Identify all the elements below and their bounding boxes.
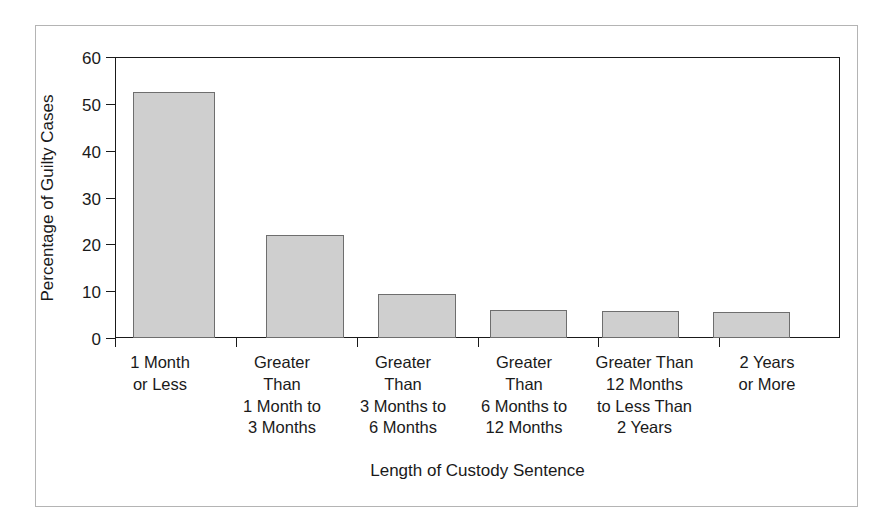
x-tick-boundary-0 <box>115 338 116 347</box>
x-axis-title: Length of Custody Sentence <box>115 461 840 481</box>
plot-area: 0 10 20 30 40 50 60 <box>115 57 840 338</box>
x-tick-boundary-1 <box>236 338 237 347</box>
x-category-label-line: 2 Years <box>557 417 732 439</box>
y-tick-0: 0 <box>106 338 115 339</box>
x-tick-boundary-5 <box>719 338 720 347</box>
x-tick-boundary-2 <box>357 338 358 347</box>
y-tick-label-30: 30 <box>82 190 101 207</box>
y-tick-label-20: 20 <box>82 237 101 254</box>
x-category-label-5: 2 Yearsor More <box>682 352 852 396</box>
bar-1-to-3-months <box>266 235 344 338</box>
y-tick-label-0: 0 <box>92 331 101 348</box>
bar-12-months-to-2-years <box>602 311 679 338</box>
x-category-label-line: to Less Than <box>557 396 732 418</box>
x-category-label-line: 2 Years <box>682 352 852 374</box>
plot-box <box>115 57 840 338</box>
y-tick-label-60: 60 <box>82 50 101 67</box>
bar-1-month-or-less <box>133 92 215 338</box>
y-tick-label-10: 10 <box>82 284 101 301</box>
figure: Percentage of Guilty Cases 0 10 20 30 40… <box>0 0 882 527</box>
y-tick-50: 50 <box>106 104 115 105</box>
y-tick-60: 60 <box>106 57 115 58</box>
y-tick-10: 10 <box>106 291 115 292</box>
y-tick-label-40: 40 <box>82 143 101 160</box>
bar-2-years-or-more <box>713 312 790 338</box>
x-category-label-line: or More <box>682 374 852 396</box>
bar-3-to-6-months <box>378 294 456 338</box>
bar-6-to-12-months <box>490 310 567 338</box>
x-tick-boundary-3 <box>478 338 479 347</box>
x-tick-boundary-4 <box>598 338 599 347</box>
y-tick-40: 40 <box>106 151 115 152</box>
y-tick-30: 30 <box>106 198 115 199</box>
y-axis-title: Percentage of Guilty Cases <box>36 57 60 338</box>
y-tick-20: 20 <box>106 244 115 245</box>
y-axis-title-text: Percentage of Guilty Cases <box>38 94 58 301</box>
y-tick-label-50: 50 <box>82 96 101 113</box>
